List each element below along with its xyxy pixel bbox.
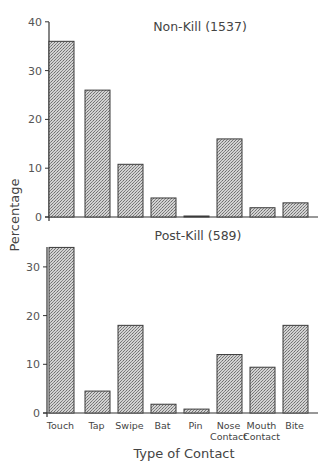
x-axis-title: Type of Contact bbox=[132, 446, 234, 461]
bar-bat bbox=[151, 198, 176, 217]
non-kill-panel: Non-Kill (1537) 010203040 bbox=[28, 16, 318, 224]
category-label: Bite bbox=[285, 420, 304, 431]
category-label: Pin bbox=[188, 420, 202, 431]
y-tick-label: 30 bbox=[28, 65, 42, 78]
bar-mouth-contact bbox=[250, 367, 275, 413]
bar-touch bbox=[49, 41, 74, 217]
bar-nose-contact bbox=[217, 355, 242, 413]
bar-bite bbox=[283, 203, 308, 217]
non-kill-title: Non-Kill (1537) bbox=[153, 19, 247, 34]
bar-mouth-contact bbox=[250, 208, 275, 217]
y-tick-label: 10 bbox=[28, 162, 42, 175]
category-label: Touch bbox=[46, 420, 74, 431]
category-label: Tap bbox=[87, 420, 104, 431]
bar-bite bbox=[283, 325, 308, 413]
y-tick-label: 0 bbox=[35, 211, 42, 224]
x-axis-category-labels: TouchTapSwipeBatPinNoseContactMouthConta… bbox=[46, 420, 304, 442]
bar-pin bbox=[184, 409, 209, 413]
category-label: Contact bbox=[210, 431, 247, 442]
category-label: Contact bbox=[243, 431, 280, 442]
bar-swipe bbox=[118, 164, 143, 217]
non-kill-bars bbox=[49, 41, 308, 217]
bar-tap bbox=[85, 391, 110, 413]
y-tick-label: 20 bbox=[28, 113, 42, 126]
bar-bat bbox=[151, 404, 176, 413]
bar-tap bbox=[85, 90, 110, 217]
y-tick-label: 10 bbox=[26, 358, 40, 371]
category-label: Mouth bbox=[247, 420, 277, 431]
post-kill-bars bbox=[49, 247, 308, 413]
bar-swipe bbox=[118, 325, 143, 413]
category-label: Bat bbox=[154, 420, 170, 431]
bar-touch bbox=[49, 247, 74, 413]
category-label: Swipe bbox=[115, 420, 143, 431]
y-tick-label: 0 bbox=[33, 407, 40, 420]
y-axis-title: Percentage bbox=[7, 178, 22, 251]
bar-pin bbox=[184, 216, 209, 217]
category-label: Nose bbox=[217, 420, 241, 431]
y-tick-label: 40 bbox=[28, 16, 42, 29]
y-tick-label: 30 bbox=[26, 261, 40, 274]
bar-nose-contact bbox=[217, 139, 242, 217]
y-tick-label: 20 bbox=[26, 310, 40, 323]
post-kill-title: Post-Kill (589) bbox=[155, 228, 242, 243]
bar-chart-figure: Non-Kill (1537) 010203040 Post-Kill (589… bbox=[0, 0, 328, 473]
post-kill-panel: Post-Kill (589) 0102030 bbox=[26, 228, 318, 420]
